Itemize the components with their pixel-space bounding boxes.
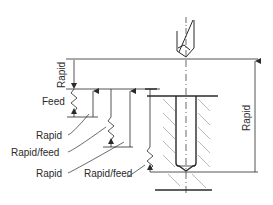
label-rapid-feed-2: Rapid/feed bbox=[84, 169, 132, 179]
workpiece-hatch-right bbox=[192, 99, 210, 188]
label-rapid-1: Rapid bbox=[36, 131, 62, 141]
label-rapid-top-left: Rapid bbox=[57, 62, 67, 88]
label-rapid-2: Rapid bbox=[36, 169, 62, 179]
label-feed: Feed bbox=[42, 97, 65, 107]
label-rapid-feed-1: Rapid/feed bbox=[11, 148, 59, 158]
label-rapid-right: Rapid bbox=[242, 105, 252, 131]
workpiece-hatch-left bbox=[163, 99, 180, 186]
drill-tool-icon bbox=[177, 17, 194, 57]
